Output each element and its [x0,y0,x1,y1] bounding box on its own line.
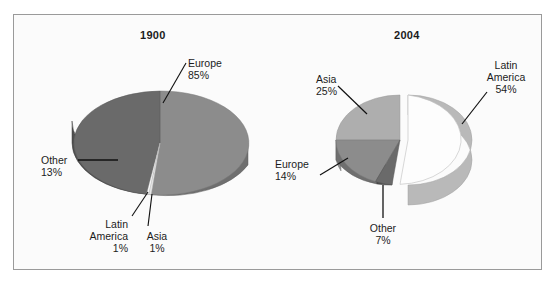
label-latin-america-2004: Latin America 54% [478,59,534,95]
label-other-2004: Other 7% [363,222,403,246]
chart-title-2004: 2004 [394,29,420,41]
label-latin-america-1900: Latin America 1% [74,218,128,254]
leader-latin-2004 [462,92,487,124]
label-asia-1900: Asia 1% [140,230,174,254]
label-other-name-1900: Other [41,154,67,166]
label-latin-pct-2004: 54% [478,83,534,95]
label-other-pct-1900: 13% [41,166,67,178]
label-europe-name-1900: Europe [188,57,222,69]
label-europe-2004: Europe 14% [275,158,309,182]
label-europe-pct-2004: 14% [275,170,309,182]
leader-latin-1900 [132,192,148,216]
label-other-name-2004: Other [370,222,396,234]
label-latin-line1-1900: Latin [105,218,128,230]
label-latin-line2-2004: America [478,71,534,83]
pie-chart-figure: 1900 2004 Europe 85% Other 13% Latin Ame… [0,0,557,286]
label-other-pct-2004: 7% [363,234,403,246]
label-latin-line2-1900: America [74,230,128,242]
label-latin-pct-1900: 1% [74,242,128,254]
label-europe-pct-1900: 85% [188,69,222,81]
chart-title-1900: 1900 [140,29,166,41]
slice-asia-top-2004 [336,95,400,140]
slice-other-top-1900 [74,91,160,194]
label-asia-pct-1900: 1% [140,242,174,254]
label-asia-pct-2004: 25% [316,85,337,97]
label-latin-line1-2004: Latin [495,59,518,71]
leader-asia-1900 [148,194,152,226]
slice-europe-top-1900 [150,91,249,195]
pie-2004 [320,86,487,218]
label-europe-1900: Europe 85% [188,57,222,81]
label-asia-name-2004: Asia [316,73,336,85]
label-other-1900: Other 13% [41,154,67,178]
label-asia-2004: Asia 25% [316,73,337,97]
label-asia-name-1900: Asia [147,230,167,242]
label-europe-name-2004: Europe [275,158,309,170]
pie-1900 [72,63,249,226]
